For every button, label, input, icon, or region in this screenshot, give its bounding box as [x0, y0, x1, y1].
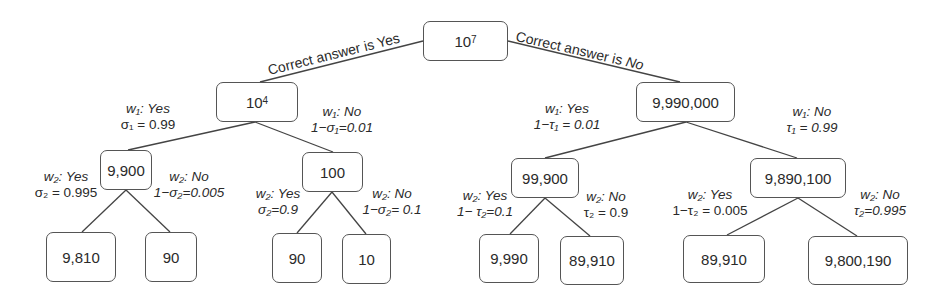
leaf-value: 9,810 [62, 249, 100, 266]
leaf-value: 89,910 [569, 252, 615, 269]
leaf-node: 90 [272, 233, 322, 283]
edge-label-line1: w₂: Yes [463, 188, 508, 203]
leaf-node: 89,910 [560, 236, 624, 285]
edge-label-line1: w₁: Yes [126, 101, 170, 116]
edge-label-line1: w₁: No [793, 104, 832, 119]
node-no-yes-value: 99,900 [522, 170, 568, 187]
edge-label-w2-no-d: w₂: No τ₂=0.995 [842, 187, 918, 219]
leaf-node: 10 [342, 234, 391, 284]
edge-label-line1: w₂: No [586, 189, 626, 204]
edge-label-line1: w₂: Yes [44, 169, 89, 184]
leaf-value: 89,910 [701, 251, 747, 268]
leaf-value: 9,800,190 [825, 252, 892, 269]
leaf-value: 9,990 [490, 250, 528, 267]
node-root-base: 10 [454, 33, 471, 50]
edge-label-line1: w₁: No [323, 104, 362, 119]
node-yes-exponent: 4 [263, 95, 269, 106]
node-yes-base: 10 [246, 94, 263, 111]
leaf-node: 9,990 [479, 234, 539, 283]
node-yes-no: 100 [302, 152, 363, 192]
leaf-node: 9,800,190 [808, 236, 908, 285]
edge-label-line2: 1−τ₂ = 0.005 [662, 203, 758, 219]
edge-label-w1-no-sigma: w₁: No 1−σ₁=0.01 [302, 104, 382, 136]
edge-label-line1: w₂: Yes [256, 186, 301, 201]
edge-label-w2-yes-a: w₂: Yes σ₂ = 0.995 [26, 169, 106, 201]
edge-label-line2: σ₂ = 0.995 [26, 185, 106, 201]
node-no-no-value: 9,890,100 [765, 170, 832, 187]
edge-label-line2: τ₂=0.995 [854, 203, 906, 218]
node-root: 107 [423, 21, 508, 61]
node-correct-yes: 104 [216, 82, 298, 122]
edge-label-line1: w₂: No [169, 169, 209, 184]
edge-label-line2: 1− τ₂=0.1 [457, 204, 513, 219]
edge-label-w1-yes-tau: w₁: Yes 1−τ₁ = 0.01 [527, 101, 607, 133]
edge-label-line2: τ₁ = 0.99 [787, 120, 838, 135]
edge-label-line2: 1−σ₁=0.01 [311, 120, 373, 135]
node-yes-yes: 9,900 [100, 150, 152, 190]
edge-label-line2: σ₂=0.9 [258, 202, 298, 217]
edge-label-w2-no-c: w₂: No τ₂ = 0.9 [574, 189, 638, 221]
edge-label-w2-no-a: w₂: No 1−σ₂=0.005 [146, 169, 232, 201]
edge-label-w2-no-b: w₂: No 1−σ₂= 0.1 [356, 186, 428, 218]
edge-label-line2: 1−τ₁ = 0.01 [534, 117, 600, 132]
node-root-exponent: 7 [471, 34, 477, 45]
edge-label-line2: 1−σ₂=0.005 [154, 185, 224, 200]
edge-label-line2: σ₁ = 0.99 [108, 117, 188, 133]
node-no-yes: 99,900 [511, 158, 579, 198]
edge-label-w1-yes-sigma: w₁: Yes σ₁ = 0.99 [108, 101, 188, 133]
leaf-node: 90 [145, 232, 197, 282]
edge-label-line1: w₂: Yes [688, 187, 733, 202]
leaf-node: 9,810 [46, 232, 116, 282]
edge-label-w2-yes-c: w₂: Yes 1− τ₂=0.1 [452, 188, 518, 220]
node-yes-no-value: 100 [320, 164, 345, 181]
edge-label-w2-yes-b: w₂: Yes σ₂=0.9 [248, 186, 308, 218]
edge-label-w1-no-tau: w₁: No τ₁ = 0.99 [772, 104, 852, 136]
edge-label-line1: w₂: No [860, 187, 900, 202]
edge-label-line2: 1−σ₂= 0.1 [362, 202, 421, 217]
edge-label-w2-yes-d: w₂: Yes 1−τ₂ = 0.005 [662, 187, 758, 219]
node-no-value: 9,990,000 [652, 94, 719, 111]
leaf-value: 90 [163, 249, 180, 266]
edge-label-line1: w₁: Yes [545, 101, 589, 116]
leaf-value: 90 [289, 250, 306, 267]
edge-label-line2: τ₂ = 0.9 [574, 205, 638, 221]
edge-label-line1: w₂: No [372, 186, 412, 201]
node-no-no: 9,890,100 [750, 158, 846, 198]
node-yes-yes-value: 9,900 [107, 162, 145, 179]
node-correct-no: 9,990,000 [636, 82, 735, 122]
leaf-value: 10 [358, 251, 375, 268]
leaf-node: 89,910 [683, 235, 765, 283]
